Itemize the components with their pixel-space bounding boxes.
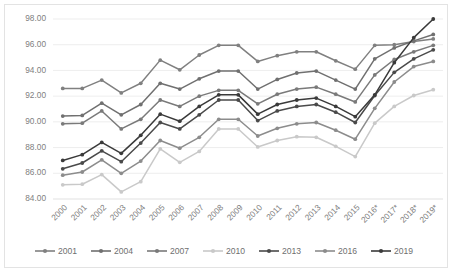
legend-label-2001[interactable]: 2001 [58,246,77,256]
data-point [353,67,357,71]
data-point [314,69,318,73]
x-axis-tick-label: 2003 [108,202,128,222]
data-point [236,127,240,131]
data-point [80,161,84,165]
data-point [334,105,338,109]
x-axis-tick-label: 2016* [359,202,382,225]
x-axis-tick-label: 2007 [186,202,206,222]
data-point [139,117,143,121]
x-axis-tick-label: 2013 [303,202,323,222]
data-point [61,183,65,187]
x-axis-tick-label: 2017* [378,202,401,225]
data-point [412,50,416,54]
y-axis-tick-label: 98.00 [25,13,46,23]
data-point [353,115,357,119]
data-point [178,146,182,150]
data-point [412,94,416,98]
data-point [275,103,279,107]
data-point [217,117,221,121]
x-axis-tick-label: 2015 [342,202,362,222]
legend-label-2016[interactable]: 2016 [338,246,357,256]
data-point [178,105,182,109]
data-point [256,112,260,116]
legend-marker-2016[interactable] [323,249,327,253]
data-point [236,93,240,97]
data-point [295,135,299,139]
data-point [236,88,240,92]
x-axis-tick-label: 2009 [225,202,245,222]
x-axis-tick-label: 2006 [166,202,186,222]
data-point [139,159,143,163]
legend-marker-2010[interactable] [211,249,215,253]
data-point [197,135,201,139]
data-point [412,36,416,40]
data-point [256,134,260,138]
legend-marker-2001[interactable] [43,249,47,253]
y-axis-tick-labels: 84.0086.0088.0090.0092.0094.0096.0098.00 [25,13,46,203]
data-point [295,98,299,102]
y-axis-tick-label: 84.00 [25,193,46,203]
legend-marker-2007[interactable] [155,249,159,253]
data-point [314,96,318,100]
data-point [353,137,357,141]
data-point [353,121,357,125]
data-point [373,93,377,97]
data-point [275,109,279,113]
data-point [61,122,65,126]
data-point [80,121,84,125]
data-point [119,91,123,95]
data-point [178,160,182,164]
legend-marker-2013[interactable] [267,249,271,253]
series-line-2001 [63,39,434,93]
data-point [197,113,201,117]
data-point [197,53,201,57]
data-point [178,87,182,91]
data-point [100,101,104,105]
data-point [373,57,377,61]
data-point [275,139,279,143]
x-axis-tick-label: 2005 [147,202,167,222]
data-point [158,81,162,85]
data-point [256,102,260,106]
legend-label-2019[interactable]: 2019 [394,246,413,256]
data-point [412,65,416,69]
data-point [314,85,318,89]
data-point [412,57,416,61]
legend-label-2007[interactable]: 2007 [170,246,189,256]
data-point [119,151,123,155]
x-axis-tick-label: 2002 [88,202,108,222]
data-point [392,46,396,50]
legend-marker-2019[interactable] [379,249,383,253]
data-point [100,149,104,153]
data-point [158,139,162,143]
legend-marker-2004[interactable] [99,249,103,253]
data-point [119,190,123,194]
data-point [353,87,357,91]
legend-label-2010[interactable]: 2010 [226,246,245,256]
data-point [275,54,279,58]
data-point [392,105,396,109]
data-point [100,109,104,113]
data-point [392,80,396,84]
data-point [236,43,240,47]
data-point [334,59,338,63]
series-line-2019 [63,19,434,160]
x-axis-tick-label: 2004 [127,202,147,222]
data-point [158,121,162,125]
data-point [334,128,338,132]
x-axis-tick-label: 2011 [264,202,284,222]
data-point [158,58,162,62]
series-group [61,17,435,194]
x-axis-tick-label: 2019* [417,202,440,225]
data-point [61,159,65,163]
x-axis-tick-label: 2008 [205,202,225,222]
legend-label-2013[interactable]: 2013 [282,246,301,256]
data-point [256,87,260,91]
data-point [80,114,84,118]
data-point [217,98,221,102]
data-point [295,87,299,91]
data-point [334,78,338,82]
legend-label-2004[interactable]: 2004 [114,246,133,256]
data-point [61,173,65,177]
data-point [236,117,240,121]
